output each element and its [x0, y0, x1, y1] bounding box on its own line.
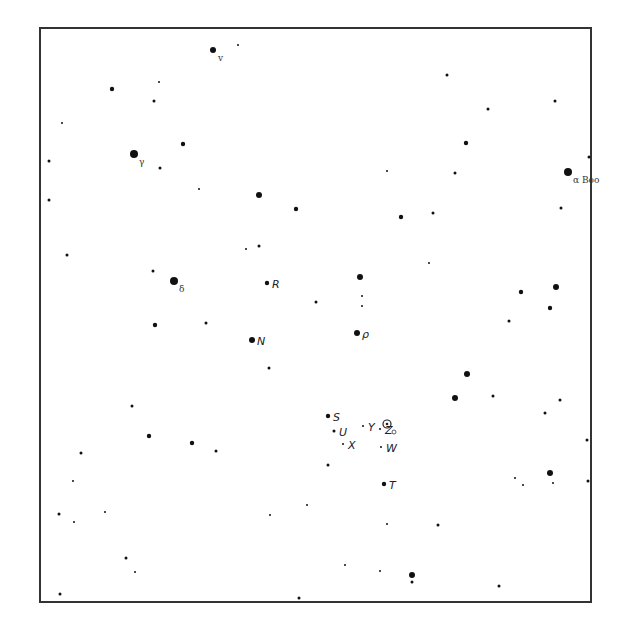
star [492, 395, 495, 398]
star [306, 504, 308, 506]
star [245, 248, 247, 250]
star [587, 480, 590, 483]
star-label: γ [139, 157, 144, 167]
star [125, 557, 128, 560]
star [344, 564, 346, 566]
star [547, 470, 553, 476]
star [48, 160, 51, 163]
star [588, 156, 591, 159]
star [73, 521, 75, 523]
star [152, 270, 155, 273]
star [269, 514, 271, 516]
star-label: R [272, 278, 280, 291]
labels-layer: vγδRα BooNρSUYZXWT [139, 53, 599, 492]
star-Y [362, 425, 364, 427]
star-ρ [354, 330, 360, 336]
star [437, 524, 440, 527]
star [428, 262, 430, 264]
star-S [326, 414, 330, 418]
star [464, 371, 470, 377]
star-U [333, 430, 336, 433]
star [452, 395, 458, 401]
star-label: U [339, 426, 347, 439]
star [411, 581, 414, 584]
star-label: X [347, 439, 356, 452]
star [294, 207, 298, 211]
star [379, 570, 381, 572]
star [548, 306, 552, 310]
star-W [380, 446, 382, 448]
star [256, 192, 262, 198]
star [432, 212, 435, 215]
star-label: N [257, 335, 265, 348]
star [357, 274, 363, 280]
star [514, 477, 516, 479]
star-label: S [333, 411, 340, 424]
star [386, 523, 388, 525]
star-label: Z [384, 424, 393, 437]
star [153, 323, 157, 327]
star [181, 142, 185, 146]
star [361, 295, 363, 297]
star [560, 207, 563, 210]
star [205, 322, 208, 325]
star [519, 290, 523, 294]
star-R [265, 281, 269, 285]
star [190, 441, 194, 445]
star [268, 367, 271, 370]
star [104, 511, 106, 513]
star [554, 100, 557, 103]
star [399, 215, 403, 219]
star [586, 439, 589, 442]
star [215, 450, 218, 453]
star [153, 100, 156, 103]
chart-frame [40, 28, 591, 602]
star-label: W [386, 442, 398, 455]
star [553, 284, 559, 290]
star-label: T [389, 479, 397, 492]
star-label: Y [368, 421, 376, 434]
marker-label-o [392, 430, 396, 434]
star [147, 434, 151, 438]
star [134, 571, 136, 573]
star [258, 245, 261, 248]
star [72, 480, 74, 482]
stars-layer [48, 44, 591, 600]
star-T [382, 482, 386, 486]
star [59, 593, 62, 596]
star [48, 199, 51, 202]
star [508, 320, 511, 323]
star [498, 585, 501, 588]
star-α-Boo [564, 168, 572, 176]
star-label: ρ [362, 328, 369, 341]
star-v [210, 47, 216, 53]
star [544, 412, 547, 415]
star [559, 399, 562, 402]
star-δ [170, 277, 178, 285]
star [237, 44, 239, 46]
star [80, 452, 83, 455]
star-chart: vγδRα BooNρSUYZXWT [0, 0, 623, 626]
star [158, 81, 160, 83]
star [522, 484, 524, 486]
star [446, 74, 449, 77]
star [58, 513, 61, 516]
star [198, 188, 200, 190]
star [131, 405, 134, 408]
star [552, 482, 554, 484]
star [386, 170, 388, 172]
star [66, 254, 69, 257]
star-label: δ [179, 284, 184, 294]
star [454, 172, 457, 175]
star [110, 87, 114, 91]
star [361, 305, 363, 307]
star-X [342, 443, 344, 445]
star [487, 108, 490, 111]
star [298, 597, 301, 600]
star-Z [379, 428, 381, 430]
star-γ [130, 150, 138, 158]
star-label: α Boo [573, 175, 599, 185]
star [464, 141, 468, 145]
star [61, 122, 63, 124]
star [327, 464, 330, 467]
